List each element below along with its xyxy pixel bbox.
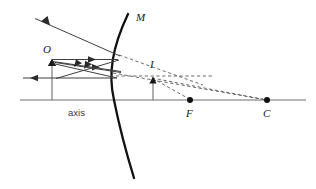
object-label: O	[43, 43, 51, 55]
ray-up-left-arrowhead	[41, 16, 50, 25]
mirror-label: M	[135, 11, 146, 23]
focus-point-dot	[187, 97, 193, 103]
centre-of-curvature-dot	[264, 97, 270, 103]
focus-label: F	[185, 107, 193, 119]
dashed-image-to-centre	[152, 78, 267, 100]
ray-axis-parallel-arrowhead	[30, 75, 38, 82]
diagram-canvas: M O I F C axis	[0, 0, 316, 189]
axis-label: axis	[68, 107, 85, 118]
centre-label: C	[263, 107, 271, 119]
virtual-ray-group	[110, 55, 267, 100]
image-label: I	[149, 58, 155, 70]
ray-diagram-svg: M O I F C axis	[0, 0, 316, 189]
dashed-mirror-to-image-upper	[119, 55, 203, 85]
concave-mirror-arc	[111, 14, 134, 178]
ray-group	[23, 16, 121, 81]
ray-parallel-arrowhead	[88, 56, 96, 63]
